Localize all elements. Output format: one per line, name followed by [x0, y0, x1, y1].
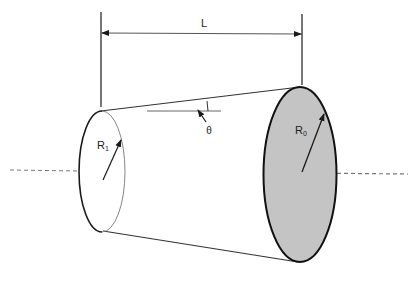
angle-pointer-arrow [198, 110, 206, 122]
frustum-diagram: L θ R1 R0 [0, 0, 420, 299]
top-slant-line [101, 87, 300, 111]
angle-tick [207, 101, 208, 111]
axis-left-dashed [10, 170, 79, 171]
bottom-slant-line [103, 231, 298, 262]
angle-label: θ [206, 125, 212, 136]
large-face-ellipse [264, 87, 337, 262]
length-label: L [201, 17, 207, 29]
radius-small-label: R1 [97, 139, 109, 152]
small-face-front-arc [79, 111, 102, 232]
small-face-back-arc [102, 111, 125, 232]
length-dimension-arrow [102, 33, 301, 34]
